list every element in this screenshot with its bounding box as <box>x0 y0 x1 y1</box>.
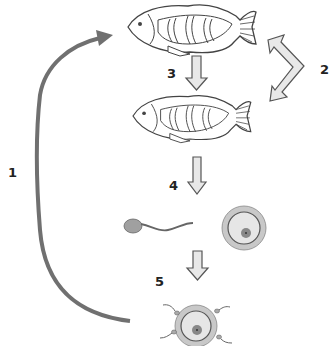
down-arrow-4 <box>188 157 206 194</box>
cycle-arrow-1 <box>37 38 130 321</box>
label-step-4: 4 <box>169 178 178 193</box>
diagram-canvas <box>0 0 333 346</box>
fertilized-egg <box>160 305 232 346</box>
double-arrow-2 <box>268 35 304 101</box>
adult-fish-top <box>128 5 256 56</box>
fish-life-cycle-diagram: 1 2 3 4 5 <box>0 0 333 346</box>
down-arrow-3 <box>186 56 207 90</box>
cycle-arrow-head <box>96 30 113 46</box>
label-step-1: 1 <box>8 165 17 180</box>
label-step-3: 3 <box>167 66 176 81</box>
sperm-cell <box>124 219 193 233</box>
egg-cell <box>222 206 266 250</box>
label-step-5: 5 <box>155 274 164 289</box>
label-step-2: 2 <box>320 62 329 77</box>
down-arrow-5 <box>187 251 208 280</box>
adult-fish-middle <box>133 96 251 143</box>
